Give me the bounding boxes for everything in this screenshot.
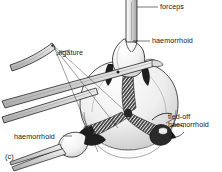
label-tied-off-line2: haemorrhoid	[168, 121, 209, 129]
needle-holder	[10, 43, 55, 71]
label-tied-off-haemorrhoid: tied-off haemorrhoid	[168, 113, 209, 130]
label-forceps: forceps	[160, 3, 184, 11]
label-haemorrhoid-top: haemorrhoid	[152, 37, 193, 45]
figure-caption: (c)	[5, 153, 14, 161]
haemorrhoid-ligation-illustration	[0, 0, 222, 172]
forceps-shaft-lower-left	[10, 144, 66, 171]
label-haemorrhoid-lower-left: haemorrhoid	[14, 133, 55, 141]
label-ligature: ligature	[59, 49, 83, 57]
